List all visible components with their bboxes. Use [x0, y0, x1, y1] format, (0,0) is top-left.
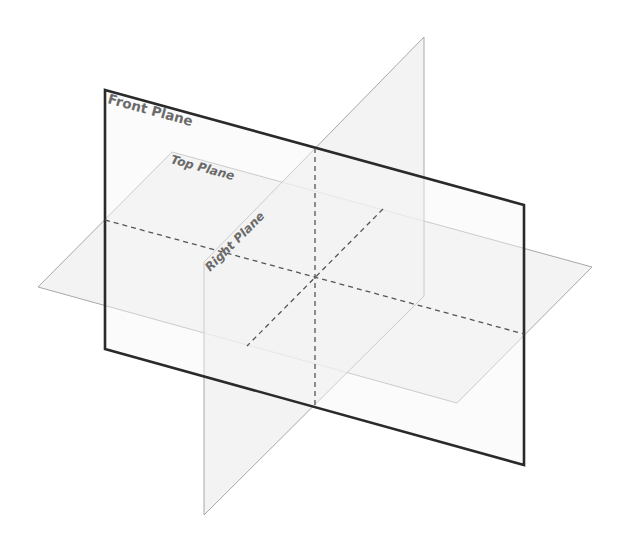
reference-planes-diagram: Front Plane Top Plane Right Plane [0, 0, 618, 535]
planes-svg: Front Plane Top Plane Right Plane [0, 0, 618, 535]
